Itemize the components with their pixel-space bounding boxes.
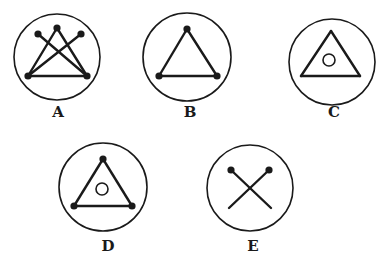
- vertex-dot: [77, 30, 84, 37]
- figure-option-b[interactable]: B: [143, 13, 231, 121]
- figure-option-e[interactable]: E: [207, 145, 293, 255]
- vertex-dot: [227, 166, 234, 173]
- vertex-dot: [83, 72, 90, 79]
- figure-option-c[interactable]: C: [289, 19, 375, 121]
- line-segment: [159, 29, 187, 76]
- vertex-dot: [155, 72, 162, 79]
- inner-circle: [323, 54, 335, 66]
- line-segment: [38, 34, 87, 76]
- vertex-dot: [53, 24, 60, 31]
- vertex-dot: [34, 30, 41, 37]
- line-segment: [187, 29, 217, 76]
- line-segment: [103, 159, 132, 206]
- vertex-dot: [213, 72, 220, 79]
- figure-options-canvas: ABCDE: [0, 0, 383, 258]
- diagram-svg: ABCDE: [0, 0, 383, 258]
- line-segment: [28, 28, 57, 76]
- figure-option-d[interactable]: D: [59, 143, 147, 255]
- option-label: C: [328, 103, 340, 121]
- vertex-dot: [183, 25, 190, 32]
- line-segment: [229, 170, 269, 208]
- vertex-dot: [128, 202, 135, 209]
- line-segment: [231, 170, 271, 208]
- vertex-dot: [265, 166, 272, 173]
- line-segment: [74, 159, 103, 206]
- inner-circle: [96, 183, 108, 195]
- option-label: E: [247, 237, 258, 255]
- line-segment: [331, 31, 360, 76]
- option-label: D: [101, 237, 114, 255]
- option-label: A: [51, 103, 64, 121]
- vertex-dot: [24, 72, 31, 79]
- vertex-dot: [99, 155, 106, 162]
- figure-option-a[interactable]: A: [14, 14, 100, 121]
- line-segment: [301, 31, 331, 76]
- option-label: B: [184, 103, 197, 121]
- vertex-dot: [70, 202, 77, 209]
